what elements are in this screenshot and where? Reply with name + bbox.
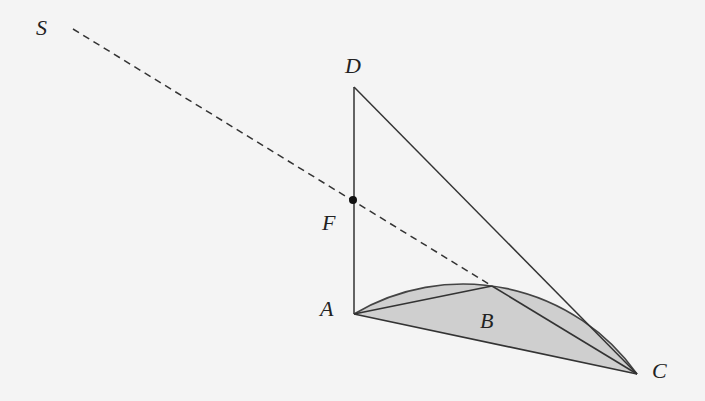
- label-s: S: [36, 17, 47, 39]
- label-b: B: [480, 310, 493, 332]
- label-c: C: [652, 360, 667, 382]
- dashed-line-sb: [73, 29, 492, 286]
- label-f: F: [322, 212, 335, 234]
- label-d: D: [345, 55, 361, 77]
- label-a: A: [320, 298, 333, 320]
- point-f-dot: [349, 196, 357, 204]
